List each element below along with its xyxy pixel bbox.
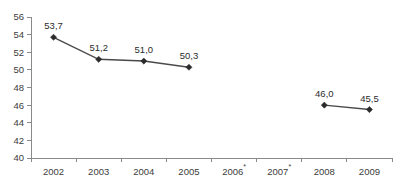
y-tick-label: 52 [13, 47, 24, 58]
y-tick-label: 54 [13, 29, 24, 40]
data-point-marker[interactable] [186, 64, 192, 70]
series-line-segment [54, 37, 189, 67]
data-point-label: 50,3 [180, 50, 199, 61]
x-tick-label: 2009 [359, 166, 380, 177]
data-point-marker[interactable] [366, 106, 372, 112]
x-tick-label: 2008 [314, 166, 335, 177]
x-tick-label: 2003 [88, 166, 109, 177]
data-point-label: 51,0 [135, 44, 154, 55]
data-point-marker[interactable] [141, 58, 147, 64]
y-tick-label: 48 [13, 82, 24, 93]
y-tick-label: 56 [13, 11, 24, 22]
data-point-label: 51,2 [89, 42, 108, 53]
y-tick-label: 50 [13, 64, 24, 75]
x-tick-label: 2004 [133, 166, 154, 177]
chart-container: 40424446485052545620022003200420052006*2… [0, 0, 402, 193]
data-point-label: 46,0 [315, 88, 334, 99]
x-tick-label: 2007* [267, 163, 291, 178]
y-tick-label: 40 [13, 152, 24, 163]
x-tick-label: 2005 [178, 166, 199, 177]
data-point-marker[interactable] [96, 56, 102, 62]
data-point-label: 45,5 [360, 93, 379, 104]
data-point-marker[interactable] [50, 34, 56, 40]
y-tick-label: 42 [13, 135, 24, 146]
data-point-marker[interactable] [321, 102, 327, 108]
series-line-segment [324, 105, 369, 109]
x-tick-label: 2002 [43, 166, 64, 177]
y-tick-label: 44 [13, 117, 24, 128]
y-tick-label: 46 [13, 100, 24, 111]
x-tick-label: 2006* [222, 163, 246, 178]
line-chart: 40424446485052545620022003200420052006*2… [0, 0, 402, 193]
data-point-label: 53,7 [44, 20, 63, 31]
